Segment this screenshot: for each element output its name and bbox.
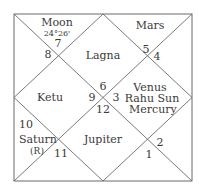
house-number-9: 9	[87, 92, 97, 103]
house-number-5: 5	[141, 44, 151, 55]
house-number-7: 7	[53, 38, 63, 49]
house-number-1: 1	[144, 149, 154, 160]
house-number-12: 12	[96, 104, 110, 115]
planet-mars: Mars	[133, 20, 167, 31]
house-number-6: 6	[98, 81, 108, 92]
house-number-2: 2	[155, 137, 165, 148]
house-number-8: 8	[43, 49, 53, 60]
house-number-11: 11	[54, 148, 68, 159]
planet-moon: Moon	[40, 17, 74, 28]
house-number-10: 10	[19, 119, 33, 130]
planet-ketu: Ketu	[33, 92, 67, 103]
planet-jupiter: Jupiter	[83, 134, 123, 145]
lagna-label: Lagna	[84, 50, 122, 61]
planet-mercury: Mercury	[129, 104, 175, 115]
planet-saturn: Saturn	[19, 134, 55, 145]
house-number-4: 4	[152, 51, 162, 62]
house-number-3: 3	[111, 92, 121, 103]
saturn-retrograde: (R)	[27, 147, 47, 156]
